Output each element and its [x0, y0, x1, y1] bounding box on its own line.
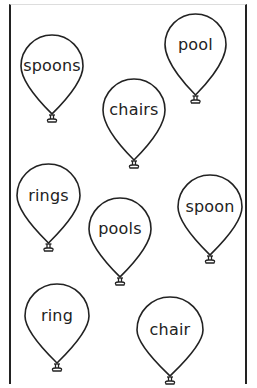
balloon-spoons[interactable]: spoons [20, 34, 84, 124]
instruction-text-clipped [14, 0, 164, 3]
balloon-rings[interactable]: rings [16, 163, 81, 253]
balloon-icon [16, 163, 81, 255]
balloon-word: pool [164, 35, 227, 54]
balloon-chairs[interactable]: chairs [102, 78, 166, 170]
balloon-icon [164, 13, 227, 107]
balloon-word: spoon [177, 197, 243, 216]
balloon-icon [20, 34, 84, 126]
balloon-icon [102, 78, 166, 172]
balloon-icon [24, 283, 90, 375]
balloon-ring[interactable]: ring [24, 283, 90, 373]
balloon-word: chairs [102, 100, 166, 119]
balloon-spoon[interactable]: spoon [177, 174, 243, 265]
balloon-icon [177, 174, 243, 267]
balloon-word: chair [136, 320, 204, 339]
balloon-word: pools [88, 219, 152, 238]
balloon-chair[interactable]: chair [136, 296, 204, 386]
balloon-word: rings [16, 186, 81, 205]
balloon-pool[interactable]: pool [164, 13, 227, 105]
balloon-icon [136, 296, 204, 388]
balloon-icon [88, 197, 152, 289]
balloon-pools[interactable]: pools [88, 197, 152, 287]
balloon-word: ring [24, 306, 90, 325]
balloon-word: spoons [20, 56, 84, 75]
